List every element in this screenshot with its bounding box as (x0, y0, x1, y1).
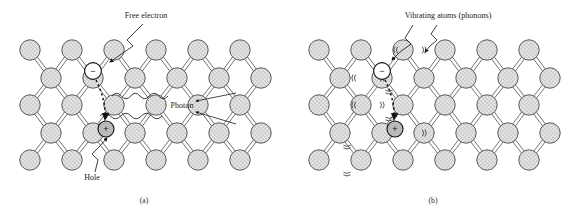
atom-circle (309, 150, 329, 170)
atom-circle (62, 95, 82, 115)
atom-circle (519, 40, 539, 60)
atom (393, 150, 413, 170)
diagram-canvas: −+Free electronPhotonHole(a)−+Vibrating … (0, 0, 579, 215)
atom (230, 95, 250, 115)
atom-circle (477, 40, 497, 60)
atom (62, 150, 82, 170)
atom (435, 40, 455, 60)
atom (456, 68, 476, 88)
atom (519, 150, 539, 170)
atom-circle (519, 150, 539, 170)
photon-label: Photon (171, 101, 194, 110)
atom-circle (230, 150, 250, 170)
atom-circle (104, 150, 124, 170)
atom-circle (540, 123, 560, 143)
atom (125, 68, 145, 88)
atom (435, 95, 455, 115)
atom (167, 68, 187, 88)
atom-circle (414, 68, 434, 88)
hole-label: Hole (84, 173, 100, 182)
photon-leader (196, 112, 236, 124)
atom (209, 68, 229, 88)
atom (62, 95, 82, 115)
atom-circle (209, 68, 229, 88)
atom-circle (519, 95, 539, 115)
atom-circle (351, 95, 371, 115)
atom-circle (435, 150, 455, 170)
atom (230, 150, 250, 170)
atom-circle (477, 95, 497, 115)
atom-circle (209, 123, 229, 143)
atom (20, 95, 40, 115)
atom-circle (20, 95, 40, 115)
atom (519, 95, 539, 115)
atom-circle (435, 95, 455, 115)
atom (20, 40, 40, 60)
atom (477, 95, 497, 115)
hole-symbol-glyph: + (392, 124, 397, 134)
atom-circle (20, 40, 40, 60)
atom-circle (146, 150, 166, 170)
atom-circle (309, 95, 329, 115)
atom (498, 123, 518, 143)
atom-circle (456, 68, 476, 88)
overlay-layer: −+Free electronPhotonHole(a)−+Vibrating … (84, 11, 492, 205)
atom-circle (146, 95, 166, 115)
electron-symbol-glyph: − (90, 66, 95, 76)
electron-symbol: − (374, 63, 391, 80)
atom-circle (393, 95, 413, 115)
atom-circle (477, 150, 497, 170)
atom-circle (230, 40, 250, 60)
vibration-mark (380, 102, 384, 109)
atom-circle (104, 40, 124, 60)
atom (498, 68, 518, 88)
atom (188, 150, 208, 170)
atom (104, 150, 124, 170)
atom (456, 123, 476, 143)
atom (251, 68, 271, 88)
atom (251, 123, 271, 143)
atom (414, 68, 434, 88)
atom-circle (20, 150, 40, 170)
atom (146, 95, 166, 115)
atom (104, 95, 124, 115)
hole-symbol-glyph: + (103, 124, 108, 134)
atom-circle (188, 40, 208, 60)
electron-symbol-glyph: − (379, 66, 384, 76)
atom (230, 40, 250, 60)
atom-circle (146, 40, 166, 60)
atom (477, 40, 497, 60)
vibration-mark (343, 172, 350, 176)
atom-circle (351, 40, 371, 60)
atom (146, 150, 166, 170)
hole-symbol: + (387, 121, 403, 137)
atom-circle (435, 40, 455, 60)
atom-circle (393, 150, 413, 170)
atom-circle (167, 123, 187, 143)
atom (209, 123, 229, 143)
atom-circle (456, 123, 476, 143)
atom-circle (251, 68, 271, 88)
atom (125, 123, 145, 143)
atom-circle (330, 68, 350, 88)
atom (309, 150, 329, 170)
atom (20, 150, 40, 170)
atom-circle (41, 123, 61, 143)
atom (309, 95, 329, 115)
atom-circle (188, 150, 208, 170)
atom-circle (230, 95, 250, 115)
atom-circle (498, 123, 518, 143)
atom (330, 68, 350, 88)
atom-circle (251, 123, 271, 143)
atom (540, 123, 560, 143)
vibration-mark (352, 75, 356, 82)
atom (41, 123, 61, 143)
atom-circle (167, 68, 187, 88)
atoms-layer (20, 40, 560, 170)
hole-symbol: + (98, 121, 114, 137)
panel-caption-a: (a) (140, 196, 149, 205)
free-electron-label: Free electron (125, 11, 167, 20)
atom (330, 123, 350, 143)
atom-circle (330, 123, 350, 143)
atom (167, 123, 187, 143)
